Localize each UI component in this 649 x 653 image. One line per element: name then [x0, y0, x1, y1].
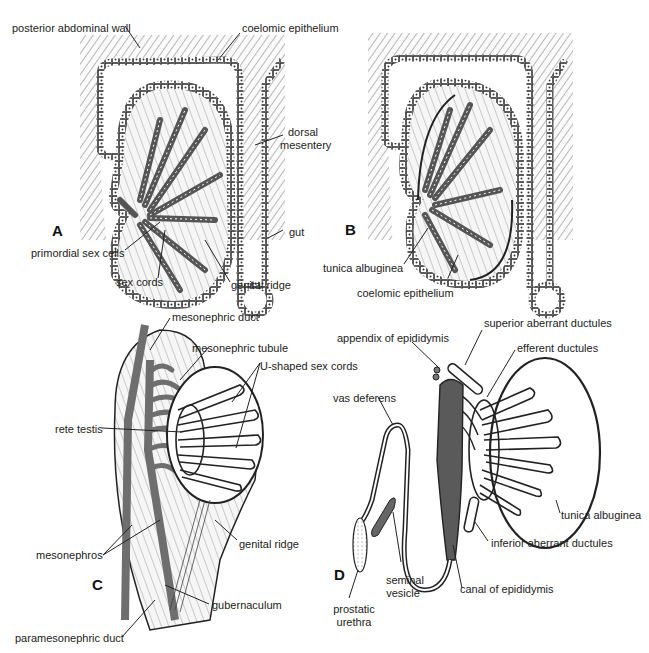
label-seminal: seminal: [386, 574, 420, 586]
label-coelomic-epithelium-b: coelomic epithelium: [357, 287, 454, 299]
label-dorsal: dorsal: [288, 126, 318, 138]
label-canal-of-epididymis: canal of epididymis: [460, 583, 554, 595]
label-sex-cords: sex cords: [116, 276, 163, 288]
label-tunica-albuginea-b: tunica albuginea: [323, 262, 403, 274]
panel-letter-a: A: [52, 222, 63, 239]
label-appendix-of-epididymis: appendix of epididymis: [337, 332, 449, 344]
label-paramesonephric-duct: paramesonephric duct: [15, 632, 124, 644]
label-superior-aberrant-ductules: superior aberrant ductules: [484, 317, 612, 329]
panel-c-artwork: [102, 318, 263, 637]
label-vas-deferens: vas deferens: [333, 392, 396, 404]
panel-a-artwork: [80, 26, 285, 315]
label-coelomic-epithelium-a: coelomic epithelium: [242, 22, 339, 34]
label-urethra: urethra: [330, 616, 378, 628]
label-gubernaculum: gubernaculum: [212, 599, 282, 611]
label-rete-testis: rete testis: [55, 423, 103, 435]
label-tunica-albuginea-d: tunica albuginea: [561, 509, 641, 521]
label-u-shaped-sex-cords: U-shaped sex cords: [260, 360, 358, 372]
label-prostatic: prostatic: [330, 603, 378, 615]
label-mesentery: mesentery: [280, 139, 331, 151]
label-efferent-ductules: efferent ductules: [517, 342, 598, 354]
label-primordial-sex-cells: primordial sex cells: [31, 247, 125, 259]
panel-letter-b: B: [345, 221, 356, 238]
panel-d-artwork: [349, 330, 600, 598]
label-gut: gut: [289, 226, 304, 238]
label-genital-ridge-a: genital ridge: [231, 279, 291, 291]
label-vesicle: vesicle: [386, 587, 420, 599]
panel-letter-d: D: [334, 566, 345, 583]
panel-letter-c: C: [92, 576, 103, 593]
label-posterior-abdominal-wall: posterior abdominal wall: [12, 22, 131, 34]
label-mesonephric-tubule: mesonephric tubule: [192, 342, 288, 354]
label-mesonephric-duct: mesonephric duct: [172, 311, 259, 323]
label-inferior-aberrant-ductules: inferior aberrant ductules: [491, 537, 613, 549]
label-genital-ridge-c: genital ridge: [239, 538, 299, 550]
label-mesonephros: mesonephros: [36, 549, 103, 561]
